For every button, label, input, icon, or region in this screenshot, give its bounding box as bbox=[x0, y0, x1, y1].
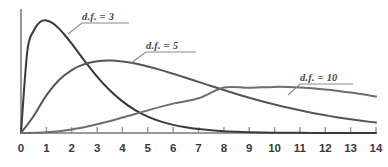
x-tick-label-3: 3 bbox=[94, 142, 100, 154]
chart-plot-area: 0 1 2 3 4 5 6 7 8 9 10 11 12 13 14 d.f. … bbox=[0, 0, 388, 167]
series-label-df3: d.f. = 3 bbox=[82, 11, 114, 22]
x-axis-tick-labels: 0 1 2 3 4 5 6 7 8 9 10 11 12 13 14 bbox=[18, 142, 383, 154]
x-tick-label-5: 5 bbox=[145, 142, 152, 154]
x-tick-label-10: 10 bbox=[268, 142, 281, 154]
density-curve-df10 bbox=[21, 87, 376, 133]
leader-line-df5 bbox=[131, 52, 196, 63]
x-tick-label-7: 7 bbox=[195, 142, 201, 154]
leader-line-df3 bbox=[68, 23, 129, 34]
series-label-df5: d.f. = 5 bbox=[146, 40, 178, 51]
x-tick-label-6: 6 bbox=[170, 142, 176, 154]
x-tick-label-1: 1 bbox=[43, 142, 50, 154]
x-tick-label-9: 9 bbox=[246, 142, 252, 154]
x-tick-label-0: 0 bbox=[18, 142, 24, 154]
series-annotations: d.f. = 3 d.f. = 5 d.f. = 10 bbox=[82, 11, 338, 83]
x-tick-label-2: 2 bbox=[68, 142, 74, 154]
x-tick-label-11: 11 bbox=[294, 142, 307, 154]
x-tick-label-4: 4 bbox=[119, 142, 126, 154]
series-label-df10: d.f. = 10 bbox=[300, 72, 338, 83]
annotation-leaders bbox=[68, 23, 353, 95]
x-tick-label-12: 12 bbox=[319, 142, 332, 154]
x-tick-label-13: 13 bbox=[344, 142, 357, 154]
chi-square-distribution-chart: 0 1 2 3 4 5 6 7 8 9 10 11 12 13 14 d.f. … bbox=[0, 0, 388, 167]
x-tick-label-14: 14 bbox=[370, 142, 383, 154]
x-tick-label-8: 8 bbox=[221, 142, 228, 154]
